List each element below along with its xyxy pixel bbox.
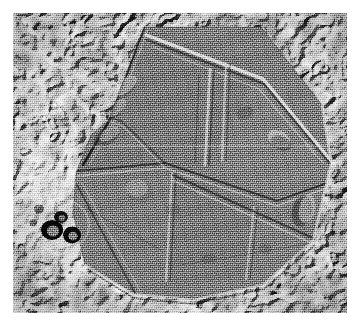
micrograph-image <box>13 13 347 313</box>
grain-overlay-b <box>13 13 347 313</box>
micrograph-figure <box>0 0 362 330</box>
